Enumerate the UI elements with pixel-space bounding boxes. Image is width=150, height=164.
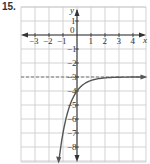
y-tick-label: −4	[67, 86, 77, 96]
x-tick-label: −1	[57, 36, 67, 46]
origin-label: 0	[70, 25, 75, 35]
y-tick-label: −6	[67, 114, 77, 124]
x-tick-label: 3	[117, 36, 122, 46]
x-tick-label: −3	[29, 36, 39, 46]
x-tick-label: −2	[43, 36, 53, 46]
x-axis-left-arrow-icon	[21, 33, 28, 38]
y-tick-label: −1	[67, 44, 77, 54]
graph: −3−2−1012341−1−2−3−4−5−6−7−8xy	[0, 0, 150, 164]
y-tick-label: −7	[67, 128, 77, 138]
x-tick-label: 4	[131, 36, 136, 46]
x-tick-label: 1	[89, 36, 94, 46]
y-axis-up-arrow-icon	[75, 9, 80, 16]
y-tick-label: 1	[71, 16, 76, 26]
y-axis-label: y	[69, 5, 74, 15]
curve-right-arrow-icon	[141, 75, 148, 80]
y-tick-label: −2	[67, 58, 77, 68]
y-tick-label: −3	[67, 72, 77, 82]
x-tick-label: 2	[103, 36, 108, 46]
curve-down-arrow-icon	[56, 157, 61, 164]
y-tick-label: −8	[67, 142, 77, 152]
x-axis-label: x	[142, 35, 147, 45]
